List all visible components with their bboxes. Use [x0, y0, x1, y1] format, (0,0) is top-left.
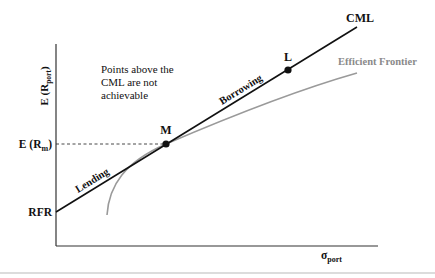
y-axis-label-sub: port	[44, 70, 53, 84]
point-l-label: L	[284, 50, 292, 64]
rfr-label: RFR	[28, 206, 52, 218]
x-axis-label-sub: port	[327, 255, 342, 264]
point-m-label: M	[160, 123, 171, 137]
annotation-line-3: achievable	[101, 89, 148, 101]
erm-label-close: )	[48, 138, 52, 151]
point-m-marker	[162, 140, 169, 147]
cml-diagram: M L CML Efficient Frontier Lending Borro…	[0, 0, 435, 278]
annotation-text: Points above the CML are not achievable	[101, 63, 176, 101]
erm-label: E (Rm)	[19, 138, 52, 153]
y-axis-label: E (Rport)	[38, 66, 53, 105]
annotation-line-2: CML are not	[101, 76, 157, 88]
cml-line	[56, 27, 357, 212]
borrowing-label: Borrowing	[217, 72, 264, 107]
y-axis-label-main: E (R	[38, 83, 51, 106]
point-l-marker	[284, 66, 291, 73]
efficient-frontier-label: Efficient Frontier	[338, 56, 417, 67]
x-axis-label: σport	[321, 249, 342, 264]
cml-label: CML	[346, 11, 374, 25]
y-axis-label-close: )	[38, 66, 51, 70]
annotation-line-1: Points above the	[101, 63, 174, 75]
erm-label-main: E (R	[19, 138, 42, 151]
